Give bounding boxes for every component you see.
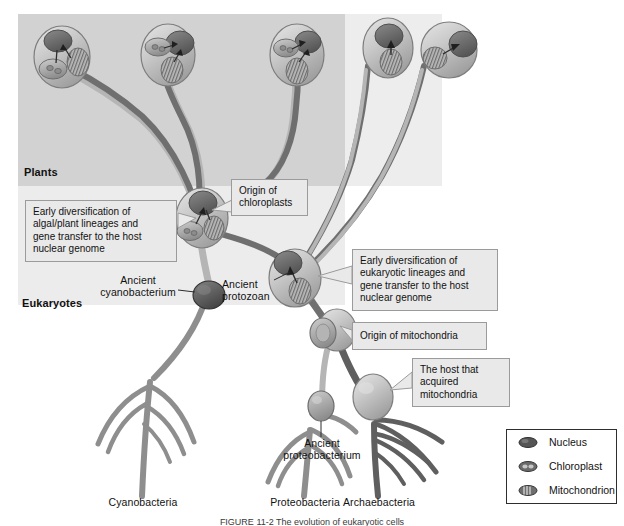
plant-cell-1 [34,26,90,88]
eukaryote-cell-2 [421,22,477,78]
plant-cell-3 [270,24,324,86]
legend-label-nucleus: Nucleus [549,436,587,448]
plant-cell-2 [141,24,195,86]
ancient-protozoan-cell [269,249,321,307]
legend-item-mitochondrion: Mitochondrion [507,478,616,502]
figure-canvas: Plants Eukaryotes Origin of chloroplasts… [0,0,624,526]
plants-region-label: Plants [24,166,58,178]
callout-early-diversification-eukaryotic: Early diversification of eukaryotic line… [352,249,498,311]
host-cell-node [353,374,393,420]
cyanobacteria-crown [98,382,194,496]
legend-box: Nucleus Chloroplast Mitochondrion [506,429,617,504]
label-ancient-protozoan: Ancient protozoan [222,278,270,302]
legend-label-chloroplast: Chloroplast [549,460,602,472]
chloroplast-icon [518,460,538,473]
label-ancient-proteobacterium: Ancient proteobacterium [272,437,372,461]
callout-early-diversification-algal: Early diversification of algal/plant lin… [25,200,177,262]
nucleus-icon [518,436,538,449]
callout-host-acquired-mitochondria: The host that acquired mitochondria [412,358,510,407]
ancient-proteobacterium-node [308,391,334,421]
archaebacteria-crown [374,420,442,496]
legend-item-nucleus: Nucleus [507,430,616,454]
label-ancient-cyanobacterium: Ancient cyanobacterium [95,274,181,298]
legend-item-chloroplast: Chloroplast [507,454,616,478]
legend-label-mitochondrion: Mitochondrion [549,484,615,496]
callout-origin-of-chloroplasts: Origin of chloroplasts [231,179,308,216]
mitochondrion-icon [518,484,538,497]
ancient-cyanobacterium-node [193,281,225,309]
tip-label-archaebacteria: Archaebacteria [328,496,430,508]
eukaryotes-region-label: Eukaryotes [22,297,82,309]
eukaryote-cell-1 [363,18,413,78]
tip-label-cyanobacteria: Cyanobacteria [92,496,194,508]
figure-caption: FIGURE 11-2 The evolution of eukaryotic … [0,517,624,526]
callout-origin-of-mitochondria: Origin of mitochondria [352,322,487,350]
